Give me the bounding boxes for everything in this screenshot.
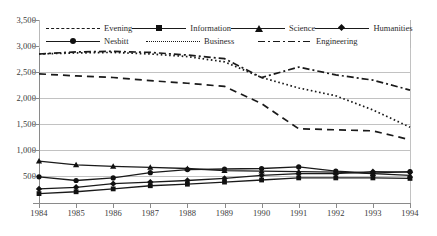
x-tick-label-1985: 1985 [56, 208, 96, 218]
legend-label-information: Information [190, 23, 231, 34]
legend-label-nesbitt: Nesbitt [104, 36, 129, 47]
legend-item-humanities[interactable]: Humanities [315, 23, 412, 34]
series-engineering [39, 51, 410, 90]
legend-item-nesbitt[interactable]: Nesbitt [46, 36, 146, 47]
data-point [222, 166, 227, 171]
data-point [36, 174, 41, 179]
x-tick-label-1988: 1988 [167, 208, 207, 218]
legend-label-humanities: Humanities [373, 23, 412, 34]
legend-row-2: Nesbitt Business Engineering [46, 35, 410, 48]
data-point [185, 167, 190, 172]
legend-label-engineering: Engineering [316, 36, 358, 47]
dashed-line-icon [46, 23, 100, 34]
solid-line-diamond-marker-icon [315, 23, 369, 34]
data-point [110, 180, 116, 186]
x-tick-label-1993: 1993 [353, 208, 393, 218]
legend-item-information[interactable]: Information [132, 23, 231, 34]
dash-dot-line-icon [258, 36, 312, 47]
data-point [111, 186, 116, 191]
legend-item-engineering[interactable]: Engineering [258, 36, 358, 47]
series-business [39, 52, 410, 127]
data-point [74, 178, 79, 183]
series-evening [39, 74, 410, 140]
x-tick-label-1987: 1987 [130, 208, 170, 218]
legend-label-business: Business [204, 36, 234, 47]
data-point [259, 166, 264, 171]
x-tick-label-1984: 1984 [19, 208, 59, 218]
data-point [370, 171, 375, 176]
data-point [333, 169, 338, 174]
solid-line-circle-marker-icon [46, 36, 100, 47]
solid-line-square-marker-icon [132, 23, 186, 34]
chart-legend: Evening Information Science Humanities N… [39, 20, 411, 48]
data-point [296, 164, 301, 169]
x-tick-label-1992: 1992 [316, 208, 356, 218]
data-point [371, 176, 376, 181]
line-chart: 3,500 3,000 2,500 2,000 1,500 1,000 500 … [0, 0, 437, 236]
legend-row-1: Evening Information Science Humanities [46, 22, 410, 35]
data-point [36, 186, 42, 192]
data-point [148, 170, 153, 175]
x-tick-label-1994: 1994 [390, 208, 430, 218]
x-tick-label-1989: 1989 [205, 208, 245, 218]
dotted-line-icon [146, 36, 200, 47]
x-tick-label-1991: 1991 [279, 208, 319, 218]
data-point [111, 175, 116, 180]
legend-label-evening: Evening [104, 23, 132, 34]
solid-line-triangle-marker-icon [231, 23, 285, 34]
x-tick-label-1990: 1990 [242, 208, 282, 218]
x-tick-label-1986: 1986 [93, 208, 133, 218]
legend-item-evening[interactable]: Evening [46, 23, 132, 34]
legend-item-business[interactable]: Business [146, 36, 258, 47]
legend-item-science[interactable]: Science [231, 23, 315, 34]
data-point [407, 169, 412, 174]
legend-label-science: Science [289, 23, 315, 34]
